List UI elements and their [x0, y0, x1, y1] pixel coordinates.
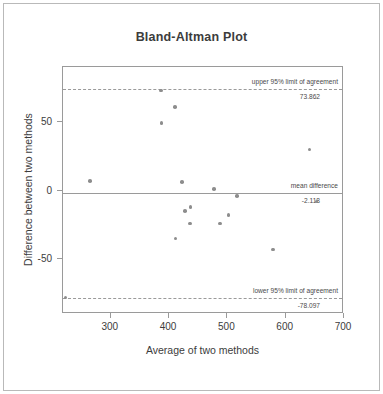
upper-limit-line	[63, 89, 342, 90]
data-point	[64, 296, 68, 300]
data-point	[189, 205, 193, 209]
upper-limit-value: 73.862	[300, 93, 320, 100]
x-tick	[285, 313, 286, 318]
data-point	[188, 222, 192, 226]
data-point	[183, 209, 187, 213]
x-tick	[168, 313, 169, 318]
data-point	[218, 222, 222, 226]
page-title: Bland-Altman Plot	[0, 30, 383, 44]
data-point	[212, 187, 216, 191]
x-tick	[226, 313, 227, 318]
x-tick-label: 500	[218, 321, 235, 332]
y-tick	[57, 121, 62, 122]
mean-difference-line	[63, 193, 342, 194]
lower-limit-line	[63, 298, 342, 299]
upper-limit-label: upper 95% limit of agreement	[252, 78, 338, 85]
x-tick	[110, 313, 111, 318]
data-point	[174, 237, 178, 241]
data-point	[180, 180, 184, 184]
x-tick	[343, 313, 344, 318]
y-tick	[57, 258, 62, 259]
x-tick-label: 300	[101, 321, 118, 332]
plot-area: upper 95% limit of agreement73.862mean d…	[63, 67, 342, 312]
x-tick-label: 400	[160, 321, 177, 332]
data-point	[235, 194, 239, 198]
data-point	[159, 89, 163, 93]
data-point	[271, 248, 275, 252]
mean-difference-label: mean difference	[291, 182, 338, 189]
data-point	[227, 213, 231, 217]
y-axis-label: Difference between two methods	[22, 66, 36, 313]
x-tick-label: 600	[276, 321, 293, 332]
data-point	[88, 179, 92, 183]
x-axis-label: Average of two methods	[62, 344, 343, 356]
y-tick-label: 50	[41, 115, 52, 126]
x-tick-label: 700	[335, 321, 352, 332]
lower-limit-label: lower 95% limit of agreement	[253, 287, 338, 294]
plot-box: upper 95% limit of agreement73.862mean d…	[62, 66, 343, 313]
data-point	[160, 121, 164, 125]
chart-page: Bland-Altman Plot upper 95% limit of agr…	[0, 0, 383, 394]
y-tick-label: 0	[46, 184, 52, 195]
data-point	[173, 105, 177, 109]
data-point	[308, 148, 312, 152]
y-tick-label: -50	[38, 253, 52, 264]
y-tick	[57, 190, 62, 191]
lower-limit-value: -78.097	[298, 302, 320, 309]
